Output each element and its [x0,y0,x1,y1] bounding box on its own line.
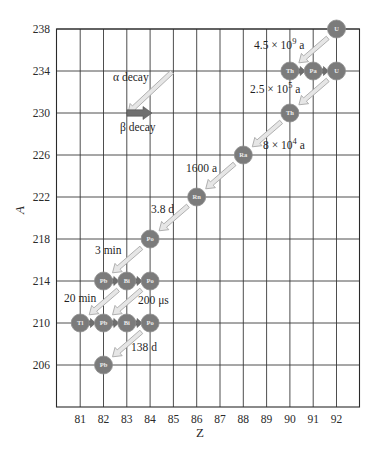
nuclide-pa-234: Pa [304,62,322,80]
nuclide-bi-214: Bi [118,272,136,290]
half-life-label: 3.8 d [151,203,174,215]
nuclide-symbol: Th [286,109,294,116]
half-life-label: 8 × 104 a [263,136,305,151]
y-tick-label: 226 [33,149,51,161]
nuclide-po-210: Po [141,314,159,332]
plot-frame [57,29,360,407]
y-tick-label: 210 [33,317,51,329]
nuclide-pb-206: Pb [95,356,113,374]
nuclide-symbol: Pb [100,277,108,284]
y-axis-title: A [12,206,27,215]
nuclide-symbol: Th [286,67,294,74]
nuclide-rn-222: Rn [188,188,206,206]
x-tick-label: 86 [191,413,203,425]
nuclide-symbol: Pb [100,361,108,368]
nuclide-u-234: U [328,62,346,80]
nuclide-u-238: U [328,20,346,38]
nuclide-bi-210: Bi [118,314,136,332]
nuclide-ra-226: Ra [234,146,252,164]
x-tick-label: 81 [74,413,86,425]
y-tick-label: 214 [33,275,51,287]
y-tick-label: 222 [33,191,51,203]
nuclide-symbol: U [334,25,339,32]
y-tick-label: 206 [33,359,51,371]
nuclide-tl-210: Tl [71,314,89,332]
half-life-label: 4.5 × 109 a [254,36,304,51]
y-tick-label: 238 [33,23,51,35]
nuclide-symbol: Pb [100,319,108,326]
legend-beta-label: β decay [120,121,156,134]
nuclide-symbol: Bi [124,319,130,326]
y-tick-label: 218 [33,233,51,245]
nuclide-po-218: Po [141,230,159,248]
nuclide-symbol: Ra [239,151,248,158]
x-tick-label: 85 [168,413,180,425]
x-tick-label: 90 [284,413,296,425]
y-tick-label: 234 [33,65,51,77]
nuclide-symbol: Po [146,235,153,242]
x-tick-label: 82 [98,413,110,425]
x-tick-label: 87 [214,413,226,425]
nuclide-symbol: Tl [77,319,83,326]
nuclide-symbol: Rn [193,193,202,200]
x-tick-label: 89 [261,413,273,425]
nuclide-pb-210: Pb [95,314,113,332]
x-tick-label: 92 [331,413,343,425]
grid [57,29,360,407]
nuclide-symbol: Pa [310,67,318,74]
nuclide-symbol: Bi [124,277,130,284]
x-axis-title: Z [196,425,204,440]
y-axis-ticks: 238234230226222218214210206 [33,23,51,371]
x-tick-label: 83 [121,413,133,425]
nuclide-th-230: Th [281,104,299,122]
nuclide-symbol: Po [146,277,153,284]
nuclide-symbol: U [334,67,339,74]
legend-alpha-label: α decay [113,71,149,84]
x-tick-label: 88 [238,413,250,425]
half-life-label: 200 μs [138,294,169,307]
legend: α decay β decay [113,70,174,134]
decay-series-diagram: 238234230226222218214210206 818283848586… [0,0,379,460]
half-life-label: 20 min [64,292,97,304]
half-life-label: 2.5 × 105 a [250,80,300,95]
half-life-label: 138 d [131,341,157,353]
nuclide-th-234: Th [281,62,299,80]
x-tick-label: 84 [144,413,156,425]
alpha-decay-arrow [299,78,329,105]
x-tick-label: 91 [307,413,319,425]
half-life-label: 3 min [95,244,122,256]
nuclide-pb-214: Pb [95,272,113,290]
nuclide-symbol: Po [146,319,153,326]
y-tick-label: 230 [33,107,51,119]
half-life-label: 1600 a [186,162,217,174]
x-axis-ticks: 818283848586878889909192 [74,413,342,425]
nuclide-po-214: Po [141,272,159,290]
